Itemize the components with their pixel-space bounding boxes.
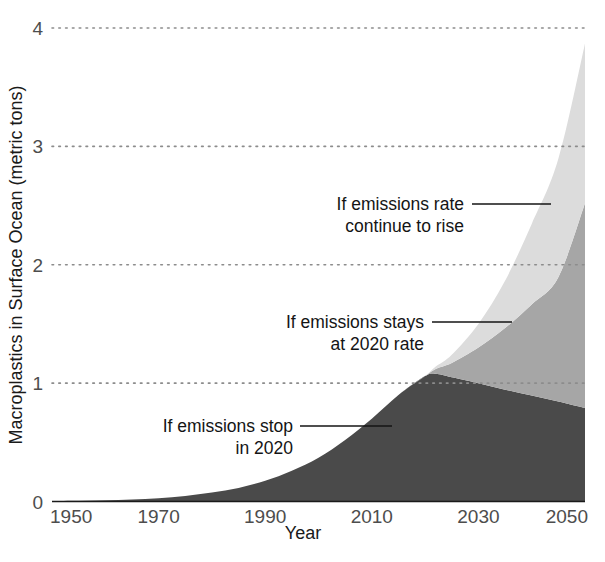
- y-tick-label-3: 3: [32, 136, 43, 157]
- annotation-stop-line2: in 2020: [236, 438, 294, 458]
- x-axis-title: Year: [285, 523, 321, 543]
- y-tick-label-0: 0: [32, 492, 43, 513]
- y-tick-label-1: 1: [32, 373, 43, 394]
- annotation-stays-line1: If emissions stays: [286, 312, 424, 332]
- y-axis-title: Macroplastics in Surface Ocean (metric t…: [6, 85, 26, 444]
- annotation-stays-line2: at 2020 rate: [331, 334, 424, 354]
- y-tick-label-4: 4: [32, 18, 43, 39]
- x-tick-label-2010: 2010: [351, 506, 393, 527]
- area-chart: 01234 195019701990201020302050 Year Macr…: [0, 0, 605, 562]
- annotation-rising-line1: If emissions rate: [337, 194, 464, 214]
- x-tick-label-2030: 2030: [457, 506, 499, 527]
- chart-container: 01234 195019701990201020302050 Year Macr…: [0, 0, 605, 562]
- y-tick-label-2: 2: [32, 255, 43, 276]
- x-tick-label-2050: 2050: [546, 506, 588, 527]
- x-tick-label-1970: 1970: [137, 506, 179, 527]
- x-tick-label-1950: 1950: [50, 506, 92, 527]
- x-tick-label-1990: 1990: [244, 506, 286, 527]
- annotation-rising-line2: continue to rise: [345, 216, 464, 236]
- annotation-stop-line1: If emissions stop: [163, 416, 293, 436]
